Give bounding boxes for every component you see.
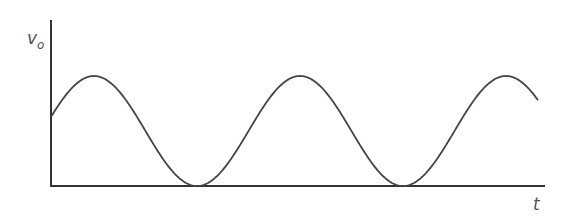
sinusoid-curve (51, 76, 538, 186)
x-axis-label: t (533, 194, 541, 214)
y-axis-label: vo (27, 28, 44, 52)
waveform-diagram: vo t (0, 0, 576, 219)
